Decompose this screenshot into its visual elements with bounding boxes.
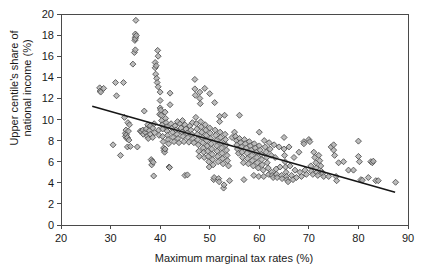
y-tick-label: 10 — [42, 114, 54, 126]
y-axis-title-line1: Upper centile's share of — [8, 29, 20, 145]
y-tick-label: 8 — [48, 135, 54, 147]
data-point — [393, 179, 399, 185]
data-point — [291, 154, 297, 160]
x-tick-label: 50 — [204, 232, 216, 244]
plot-frame-rect — [61, 14, 408, 225]
x-axis-ticks: 2030405060708090 — [55, 225, 414, 244]
x-tick-label: 80 — [352, 232, 364, 244]
data-point — [133, 17, 139, 23]
data-point — [167, 102, 173, 108]
x-tick-label: 40 — [154, 232, 166, 244]
data-point — [157, 98, 163, 104]
y-tick-label: 18 — [42, 29, 54, 41]
x-tick-label: 20 — [55, 232, 67, 244]
data-point — [110, 142, 116, 148]
data-point — [217, 119, 223, 125]
y-tick-label: 12 — [42, 92, 54, 104]
data-point — [196, 153, 202, 159]
data-point — [155, 53, 161, 59]
y-tick-label: 6 — [48, 156, 54, 168]
data-point — [134, 144, 140, 150]
data-point — [222, 112, 228, 118]
data-point — [356, 159, 362, 165]
data-point — [113, 80, 119, 86]
data-point — [355, 153, 361, 159]
x-tick-label: 30 — [104, 232, 116, 244]
data-point — [365, 175, 371, 181]
data-point — [282, 152, 288, 158]
data-point — [192, 86, 198, 92]
data-point — [350, 167, 356, 173]
data-point — [296, 149, 302, 155]
data-point — [341, 159, 347, 165]
data-point — [256, 129, 262, 135]
data-point — [114, 93, 120, 99]
data-point — [239, 154, 245, 160]
plot-frame — [61, 14, 408, 225]
x-tick-label: 60 — [253, 232, 265, 244]
chart-figure: 02468101214161820 2030405060708090 Upper… — [0, 0, 424, 275]
data-point — [207, 91, 213, 97]
data-point — [240, 160, 246, 166]
data-point — [334, 178, 340, 184]
data-points-group — [97, 17, 399, 191]
data-point — [120, 80, 126, 86]
data-point — [130, 61, 136, 67]
data-point — [212, 100, 218, 106]
data-point — [281, 134, 287, 140]
data-point — [202, 85, 208, 91]
data-point — [355, 138, 361, 144]
data-point — [117, 152, 123, 158]
scatter-plot: 02468101214161820 2030405060708090 Upper… — [0, 0, 424, 275]
y-tick-label: 2 — [48, 198, 54, 210]
data-point — [336, 160, 342, 166]
data-point — [332, 152, 338, 158]
data-point — [236, 112, 242, 118]
y-tick-label: 16 — [42, 50, 54, 62]
data-point — [167, 90, 173, 96]
x-tick-label: 70 — [303, 232, 315, 244]
data-point — [251, 172, 257, 178]
y-tick-label: 0 — [48, 219, 54, 231]
data-point — [141, 108, 147, 114]
y-tick-label: 20 — [42, 8, 54, 20]
x-tick-label: 90 — [402, 232, 414, 244]
y-axis-title: Upper centile's share of national income… — [8, 29, 33, 145]
y-tick-label: 14 — [42, 71, 54, 83]
y-tick-label: 4 — [48, 177, 54, 189]
data-point — [155, 47, 161, 53]
y-axis-ticks: 02468101214161820 — [42, 8, 61, 231]
data-point — [151, 173, 157, 179]
data-point — [197, 101, 203, 107]
data-point — [311, 149, 317, 155]
data-point — [241, 177, 247, 183]
data-point — [227, 178, 233, 184]
data-point — [192, 76, 198, 82]
x-axis-title: Maximum marginal tax rates (%) — [155, 252, 313, 264]
y-axis-title-line2: national income (%) — [21, 39, 33, 136]
data-point — [193, 114, 199, 120]
